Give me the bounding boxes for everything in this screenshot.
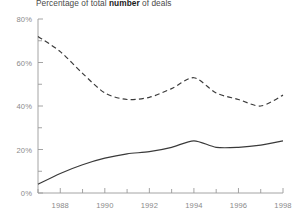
series-line-solid-series (38, 141, 283, 185)
chart-plot-svg (0, 0, 300, 218)
series-group (38, 36, 283, 184)
series-line-dashed-series (38, 36, 283, 106)
chart-container: Percentage of total number of deals 0%20… (0, 0, 300, 218)
